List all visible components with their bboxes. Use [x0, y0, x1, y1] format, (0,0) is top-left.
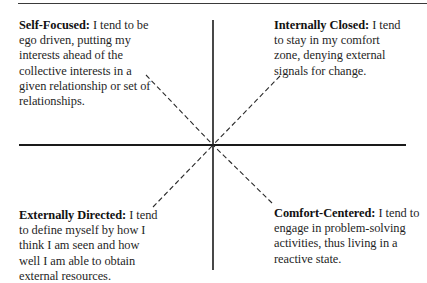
quadrant-comfort-centered: Comfort-Centered: I tend to engage in pr… [274, 206, 424, 267]
quadrant-title: Externally Directed: [19, 208, 126, 222]
diagonal-bottom-left [153, 145, 213, 207]
quadrant-title: Self-Focused: [19, 18, 90, 32]
quadrant-title: Internally Closed: [274, 18, 369, 32]
quadrant-internally-closed: Internally Closed: I tend to stay in my … [274, 18, 404, 79]
diagonal-top-right [213, 76, 280, 145]
quadrant-externally-directed: Externally Directed: I tend to define my… [19, 208, 159, 283]
diagonal-bottom-right [213, 145, 272, 203]
quadrant-self-focused: Self-Focused: I tend to be ego driven, p… [19, 18, 159, 109]
quadrant-title: Comfort-Centered: [274, 206, 375, 220]
